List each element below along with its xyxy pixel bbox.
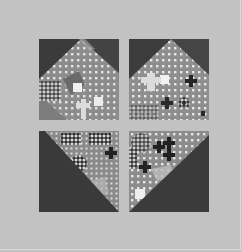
quilt-square-bottom-right	[129, 131, 209, 212]
quilt-square-bottom-left	[39, 131, 119, 212]
photo-frame: Photograph of a quilt block made of four…	[0, 0, 241, 250]
quilt-square-top-right	[129, 39, 209, 120]
quilt-square-top-left	[39, 39, 119, 120]
